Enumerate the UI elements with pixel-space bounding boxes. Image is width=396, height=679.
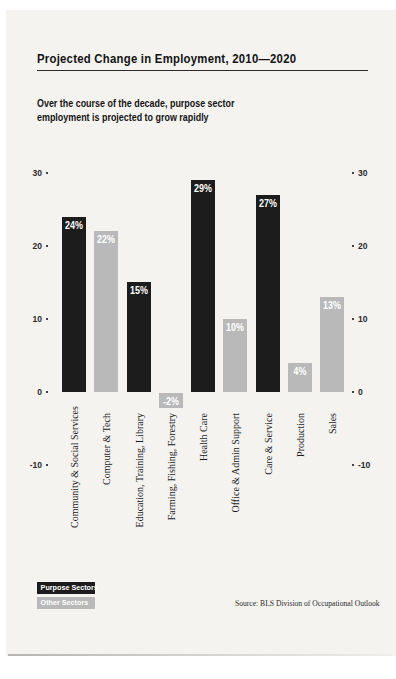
bar: 15% [127,282,151,392]
tick-dot [352,245,354,247]
tick-dot [46,464,48,466]
category-label: Health Care [197,413,210,528]
bar-value-label: 27% [258,195,278,209]
tick-dot [352,464,354,466]
category-label: Sales [326,413,339,528]
y-tick-label-left: -10 [18,460,42,470]
chart-subtitle-line1: Over the course of the decade, purpose s… [37,97,234,109]
legend-swatch: Other Sectors [37,597,95,609]
bar-value-label: 29% [193,180,213,194]
y-tick-label-right: 10 [358,314,382,324]
title-underline [37,70,368,71]
bar: 22% [94,231,118,392]
bar-value-label: 13% [322,297,342,311]
y-tick-label-left: 0 [18,387,42,397]
category-label: Community & Social Services [68,413,81,528]
tick-dot [352,318,354,320]
legend-label: Purpose Sectors [37,582,89,594]
scanned-page-canvas: Projected Change in Employment, 2010—202… [0,0,396,679]
y-tick-label-right: 0 [358,387,382,397]
legend-label: Other Sectors [37,597,89,609]
bar-value-label: 4% [290,363,310,377]
category-label: Production [294,413,307,528]
bar: 10% [223,319,247,392]
bar-value-label: 22% [96,231,116,245]
bar: 27% [256,195,280,392]
y-tick-label-right: -10 [358,460,382,470]
chart-title: Projected Change in Employment, 2010—202… [37,51,296,66]
y-tick-label-left: 20 [18,241,42,251]
category-label: Care & Service [262,413,275,528]
y-tick-label-right: 30 [358,168,382,178]
category-label: Office & Admin Support [229,413,242,528]
bar-value-label: 15% [129,282,149,296]
tick-dot [46,391,48,393]
y-tick-label-left: 30 [18,168,42,178]
bar: -2% [159,393,183,408]
bar: 29% [191,180,215,392]
category-label: Education, Training, Library [133,413,146,528]
tick-dot [352,391,354,393]
y-tick-label-right: 20 [358,241,382,251]
tick-dot [46,172,48,174]
tick-dot [352,172,354,174]
bar-value-label: 24% [64,217,84,231]
source-note: Source: BLS Division of Occupational Out… [235,599,380,608]
bar-value-label: 10% [225,319,245,333]
bar: 4% [288,363,312,392]
bar: 24% [62,217,86,392]
category-label: Farming, Fishing, Forestry [165,413,178,528]
bar: 13% [320,297,344,392]
y-tick-label-left: 10 [18,314,42,324]
bar-value-label: -2% [161,394,181,407]
category-label: Computer & Tech [100,413,113,528]
chart-subtitle: Over the course of the decade, purpose s… [37,97,234,124]
page-bottom-edge [8,654,392,656]
legend-swatch: Purpose Sectors [37,582,95,594]
tick-dot [46,318,48,320]
tick-dot [46,245,48,247]
chart-subtitle-line2: employment is projected to grow rapidly [37,111,209,123]
